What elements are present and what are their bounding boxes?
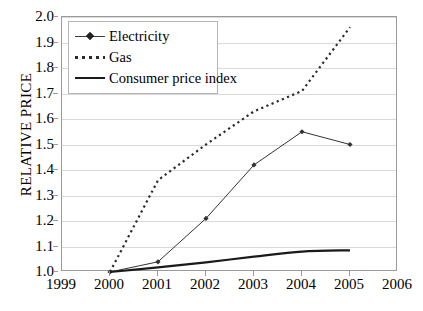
legend-label: Consumer price index [109, 71, 237, 86]
x-tick-mark [349, 271, 350, 276]
x-tick-mark [205, 271, 206, 276]
x-tick-mark [157, 271, 158, 276]
legend-item-gas: Gas [75, 47, 211, 68]
x-tick-label: 1999 [46, 276, 76, 293]
x-tick-mark [253, 271, 254, 276]
legend: Electricity Gas Consumer price index [68, 21, 218, 94]
x-tick-label: 2004 [286, 276, 316, 293]
dotted-line-icon [75, 52, 105, 64]
legend-label: Gas [109, 50, 132, 65]
x-tick-label: 2006 [382, 276, 412, 293]
x-tick-label: 2001 [142, 276, 172, 293]
x-tick-label: 2003 [238, 276, 268, 293]
x-tick-label: 2005 [334, 276, 364, 293]
legend-label: Electricity [109, 29, 169, 44]
chart-figure: RELATIVE PRICE 1.01.11.21.31.41.51.61.71… [0, 0, 423, 311]
x-tick-mark [301, 271, 302, 276]
legend-item-consumer-price-index: Consumer price index [75, 68, 211, 89]
legend-item-electricity: Electricity [75, 26, 211, 47]
solid-line-icon [75, 73, 105, 85]
x-tick-label: 2000 [94, 276, 124, 293]
x-tick-mark [109, 271, 110, 276]
x-tick-label: 2002 [190, 276, 220, 293]
line-diamond-marker-icon [75, 31, 105, 43]
